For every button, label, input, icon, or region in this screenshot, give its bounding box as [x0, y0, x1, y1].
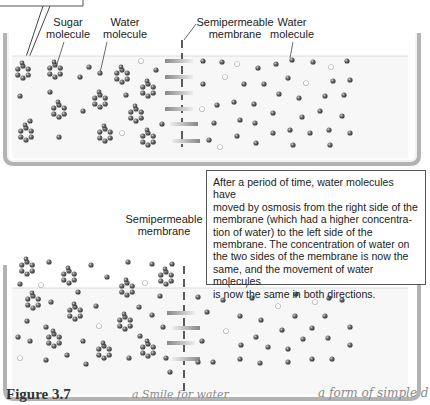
callout-line: membrane. The concentration of water on: [213, 238, 419, 250]
explanation-callout: After a period of time, water molecules …: [206, 170, 426, 285]
top-container: [5, 33, 419, 164]
callout-line: membrane (which had a higher concentra-: [213, 213, 419, 225]
water-molecule-label-left: Water molecule: [96, 16, 154, 40]
callout-line: the two sides of the membrane is now the: [213, 250, 419, 262]
callout-line: After a period of time, water molecules …: [213, 176, 419, 201]
callout-line: is now the same in both directions.: [213, 288, 419, 300]
sugar-molecule-label: Sugar molecule: [42, 16, 94, 40]
callout-line: moved by osmosis from the right side of …: [213, 201, 419, 213]
handwritten-note-2: a form of simple d: [318, 386, 429, 400]
semipermeable-membrane-label-bottom: Semipermeable membrane: [114, 213, 214, 237]
callout-line: same, and the movement of water molecule…: [213, 263, 419, 288]
water-molecule-label-right: Water molecule: [262, 16, 322, 40]
callout-line: tion of water) to the left side of the: [213, 226, 419, 238]
figure-label: Figure 3.7: [6, 386, 71, 403]
handwritten-note-1: a Smile for water: [132, 388, 229, 401]
